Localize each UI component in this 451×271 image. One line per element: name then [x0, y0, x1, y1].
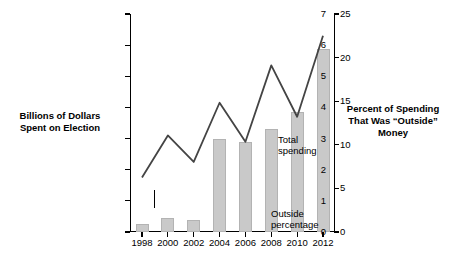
left-tick [125, 107, 130, 108]
annotation-outside-percentage: Outside percentage [271, 208, 335, 230]
plot-area: 01234567 0510152025 19982000200220042006… [130, 14, 335, 232]
left-tick [125, 45, 130, 46]
left-tick [125, 138, 130, 139]
left-tick [125, 231, 130, 232]
right-tick [334, 101, 339, 102]
chart-figure: Billions of Dollars Spent on Election Pe… [0, 0, 451, 271]
left-tick-label: 2 [306, 165, 326, 175]
right-axis-title: Percent of Spending That Was “Outside” M… [340, 103, 446, 139]
annotation-outside-percentage-line2: percentage [271, 219, 319, 230]
annotation-total-spending-line1: Total [278, 134, 298, 145]
right-tick [334, 188, 339, 189]
right-tick-label: 10 [340, 140, 360, 150]
annotation-outside-percentage-line1: Outside [271, 208, 304, 219]
right-tick [334, 144, 339, 145]
x-tick-label: 2012 [308, 238, 338, 248]
left-tick [125, 13, 130, 14]
right-tick-label: 20 [340, 53, 360, 63]
left-tick [125, 169, 130, 170]
left-tick-label: 5 [306, 71, 326, 81]
annotation-total-spending-line2: spending [278, 145, 317, 156]
annotation-leader-line [154, 190, 155, 208]
right-tick-label: 0 [340, 227, 360, 237]
left-tick [125, 76, 130, 77]
left-tick-label: 1 [306, 196, 326, 206]
left-tick-label: 4 [306, 102, 326, 112]
left-tick-label: 7 [306, 9, 326, 19]
right-tick [334, 13, 339, 14]
left-tick [125, 200, 130, 201]
right-tick-label: 25 [340, 9, 360, 19]
right-tick [334, 57, 339, 58]
line-series-total-spending [130, 14, 335, 232]
left-tick-label: 6 [306, 40, 326, 50]
right-tick-label: 15 [340, 96, 360, 106]
right-tick [334, 231, 339, 232]
right-tick-label: 5 [340, 183, 360, 193]
annotation-total-spending: Total spending [278, 134, 334, 156]
left-axis-title: Billions of Dollars Spent on Election [6, 110, 114, 134]
